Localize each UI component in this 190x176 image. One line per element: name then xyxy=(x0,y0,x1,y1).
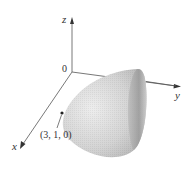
x-axis-label: x xyxy=(12,141,17,152)
z-axis-label: z xyxy=(62,14,66,25)
paraboloid-surface xyxy=(63,69,147,157)
paraboloid-diagram xyxy=(0,0,190,176)
point-marker xyxy=(57,111,64,128)
point-label: (3, 1, 0) xyxy=(40,129,72,140)
z-axis xyxy=(70,17,74,72)
y-axis-label: y xyxy=(175,90,180,101)
origin-label: 0 xyxy=(62,63,67,74)
